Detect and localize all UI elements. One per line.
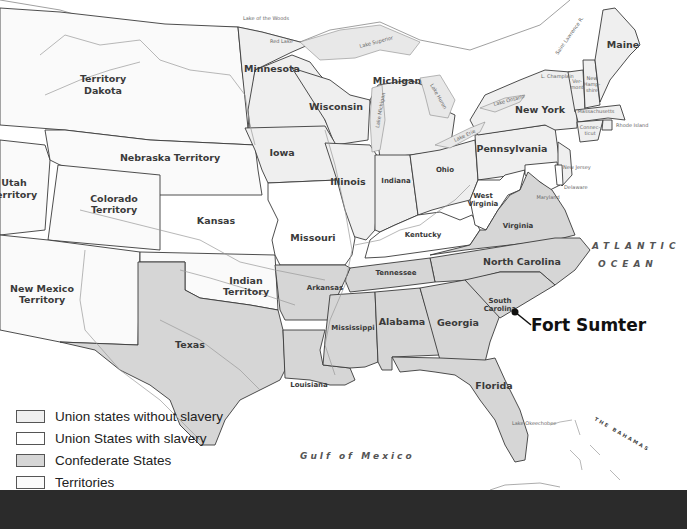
- label-mississippi: Mississippi: [331, 324, 374, 332]
- label-maine: Maine: [607, 39, 639, 50]
- legend-label: Territories: [55, 475, 114, 490]
- label-lake-okeechobee: Lake Okeechobee: [512, 420, 556, 426]
- legend-item-confederate: Confederate States: [16, 449, 256, 471]
- label-pennsylvania: Pennsylvania: [476, 143, 547, 154]
- legend-item-union-free: Union states without slavery: [16, 405, 256, 427]
- label-delaware: Delaware: [564, 184, 588, 190]
- label-fort-sumter: Fort Sumter: [531, 315, 647, 335]
- label-new-hampshire-3: shire: [586, 87, 598, 93]
- label-west-virginia-2: Virginia: [468, 200, 499, 208]
- label-north-carolina: North Carolina: [483, 256, 561, 267]
- label-utah-1: Utah: [1, 177, 27, 188]
- label-georgia: Georgia: [437, 317, 479, 328]
- label-south-carolina-1: South: [488, 297, 511, 305]
- label-massachusetts: Massachusetts: [578, 108, 615, 114]
- label-new-york: New York: [515, 104, 566, 115]
- label-texas: Texas: [175, 339, 205, 350]
- label-maryland: Maryland: [536, 194, 559, 201]
- label-dakota-1: Territory: [80, 73, 127, 84]
- bottom-bar: [0, 490, 687, 529]
- label-iowa: Iowa: [269, 147, 294, 158]
- swatch-territories: [16, 476, 45, 489]
- label-minnesota: Minnesota: [244, 63, 300, 74]
- label-atlantic-2: OCEAN: [598, 259, 658, 269]
- label-lake-of-the-woods: Lake of the Woods: [243, 15, 289, 21]
- legend-label: Union States with slavery: [55, 431, 207, 446]
- label-atlantic-1: ATLANTIC: [591, 241, 681, 251]
- label-vermont-2: mont: [570, 84, 583, 90]
- label-louisiana: Louisiana: [290, 381, 328, 389]
- label-indian-1: Indian: [229, 275, 263, 286]
- label-michigan: Michigan: [373, 75, 422, 86]
- fort-sumter-dot[interactable]: [512, 309, 519, 316]
- label-gulf-of-mexico: Gulf of Mexico: [300, 451, 415, 461]
- label-missouri: Missouri: [290, 232, 335, 243]
- legend-label: Union states without slavery: [55, 409, 223, 424]
- label-red-lake: Red Lake: [270, 38, 293, 44]
- label-ohio: Ohio: [436, 166, 454, 174]
- label-new-mexico-1: New Mexico: [10, 283, 74, 294]
- label-kentucky: Kentucky: [405, 231, 442, 239]
- swatch-confederate: [16, 454, 45, 467]
- label-indian-2: Territory: [223, 286, 270, 297]
- label-west-virginia-1: West: [473, 192, 493, 200]
- label-connecticut-2: ticut: [584, 130, 595, 136]
- territory-dakota: [0, 8, 255, 145]
- label-indiana: Indiana: [381, 177, 411, 185]
- label-lake-champlain: L. Champlain: [541, 73, 574, 80]
- label-utah-2: Territory: [0, 189, 38, 200]
- label-illinois: Illinois: [330, 176, 366, 187]
- label-colorado-2: Territory: [91, 204, 138, 215]
- label-dakota-2: Dakota: [84, 85, 122, 96]
- swatch-union-free: [16, 410, 45, 423]
- label-tennessee: Tennessee: [375, 269, 416, 277]
- swatch-union-slave: [16, 432, 45, 445]
- label-colorado-1: Colorado: [90, 193, 138, 204]
- label-new-jersey: New Jersey: [563, 164, 591, 171]
- label-alabama: Alabama: [379, 316, 426, 327]
- label-virginia: Virginia: [503, 222, 534, 230]
- legend-label: Confederate States: [55, 453, 171, 468]
- label-arkansas: Arkansas: [307, 284, 343, 292]
- legend-item-union-slave: Union States with slavery: [16, 427, 256, 449]
- state-rhode-island: [602, 120, 612, 130]
- label-kansas: Kansas: [197, 215, 236, 226]
- label-wisconsin: Wisconsin: [309, 101, 363, 112]
- label-new-mexico-2: Territory: [19, 294, 66, 305]
- label-nebraska: Nebraska Territory: [120, 152, 221, 163]
- legend: Union states without slavery Union State…: [16, 405, 256, 493]
- label-florida: Florida: [475, 380, 512, 391]
- label-rhode-island: Rhode Island: [616, 122, 648, 128]
